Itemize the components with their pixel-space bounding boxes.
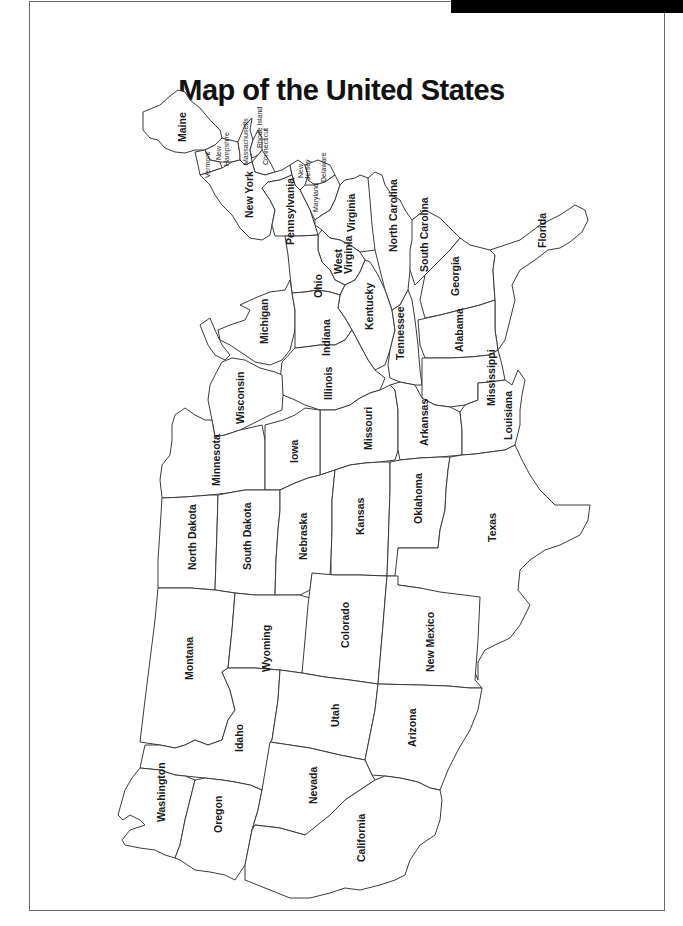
- label-arizona: Arizona: [406, 708, 418, 747]
- label-nevada: Nevada: [307, 766, 319, 804]
- label-indiana: Indiana: [320, 319, 332, 356]
- label-wisconsin: Wisconsin: [234, 372, 246, 424]
- label-west-virginia-2: Virginia: [342, 236, 354, 274]
- us-map: Maine New Hampshire Vermont Massachusett…: [0, 0, 683, 926]
- state-arizona[interactable]: [365, 684, 482, 790]
- label-new-york: New York: [243, 171, 255, 218]
- label-connecticut: Connecticut: [262, 128, 269, 165]
- label-oregon: Oregon: [212, 796, 224, 833]
- label-tennessee: Tennessee: [394, 306, 406, 360]
- label-idaho: Idaho: [233, 724, 245, 752]
- label-mississippi: Mississippi: [485, 349, 497, 406]
- label-ohio: Ohio: [312, 274, 324, 298]
- label-vermont: Vermont: [204, 152, 211, 178]
- label-new-jersey-1: New: [297, 163, 304, 178]
- label-florida: Florida: [536, 213, 548, 248]
- label-california: California: [355, 813, 367, 862]
- label-minnesota: Minnesota: [210, 434, 222, 486]
- label-maine: Maine: [176, 112, 188, 142]
- label-nebraska: Nebraska: [297, 513, 309, 560]
- label-new-mexico: New Mexico: [424, 612, 436, 672]
- label-maryland: Maryland: [312, 183, 320, 212]
- label-michigan: Michigan: [258, 298, 270, 344]
- label-new-hampshire-2: Hampshire: [223, 132, 231, 166]
- label-illinois: Illinois: [322, 367, 334, 400]
- label-kansas: Kansas: [354, 497, 366, 535]
- label-arkansas: Arkansas: [418, 399, 430, 446]
- label-washington: Washington: [155, 762, 167, 822]
- label-wyoming: Wyoming: [260, 625, 272, 672]
- label-louisiana: Louisiana: [502, 391, 514, 440]
- label-south-dakota: South Dakota: [241, 502, 253, 570]
- label-colorado: Colorado: [339, 602, 351, 648]
- label-montana: Montana: [183, 637, 195, 680]
- label-north-dakota: North Dakota: [186, 504, 198, 570]
- label-iowa: Iowa: [288, 440, 300, 463]
- label-north-carolina: North Carolina: [387, 179, 399, 252]
- label-utah: Utah: [329, 704, 341, 727]
- label-kentucky: Kentucky: [363, 283, 375, 330]
- label-alabama: Alabama: [453, 308, 465, 352]
- label-south-carolina: South Carolina: [418, 197, 430, 272]
- label-oklahoma: Oklahoma: [412, 473, 424, 524]
- label-georgia: Georgia: [449, 256, 461, 296]
- label-new-hampshire-1: New: [215, 145, 222, 160]
- label-pennsylvania: Pennsylvania: [284, 178, 296, 245]
- label-missouri: Missouri: [362, 407, 374, 450]
- label-texas: Texas: [486, 513, 498, 542]
- state-michigan[interactable]: [218, 280, 295, 365]
- label-delaware: Delaware: [320, 152, 327, 182]
- label-massachusetts: Massachusetts: [242, 118, 249, 165]
- label-virginia: Virginia: [345, 194, 357, 232]
- label-new-jersey-2: Jersey: [304, 159, 312, 180]
